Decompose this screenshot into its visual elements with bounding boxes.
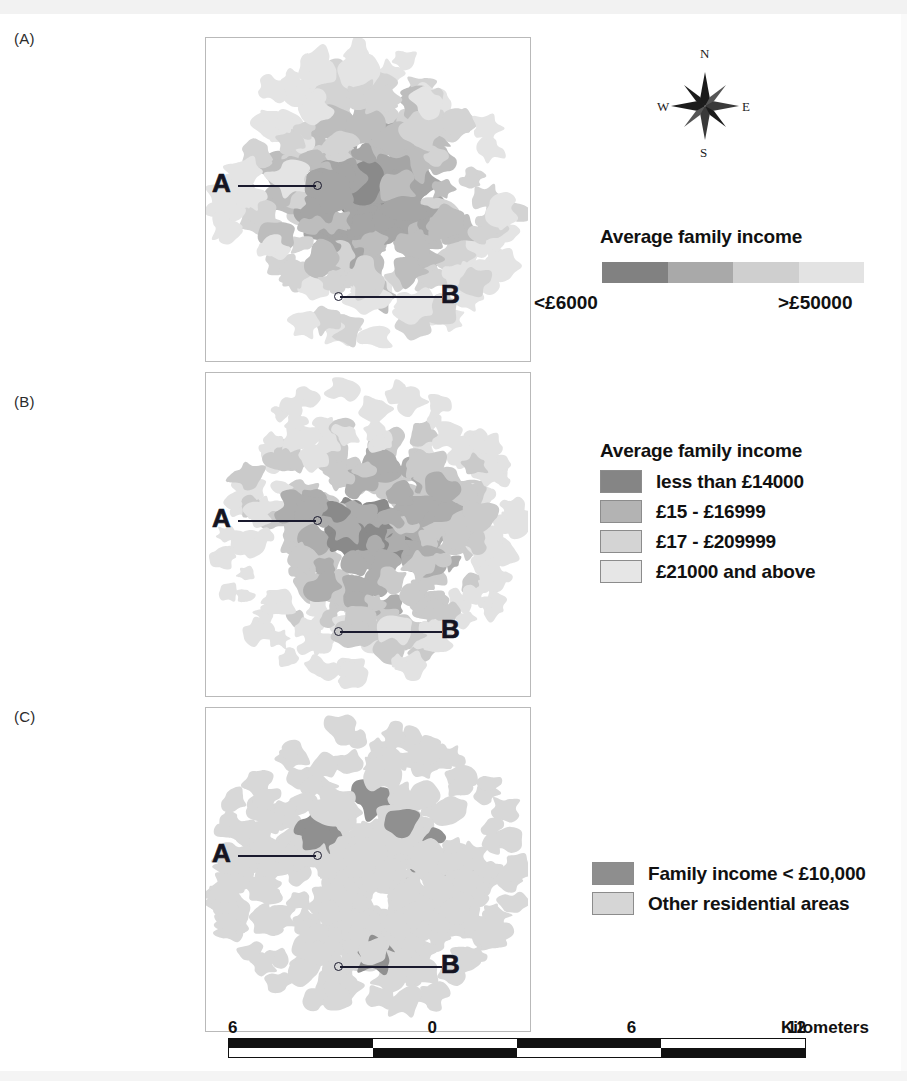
legend-c-swatch: [592, 862, 634, 885]
scale-bar-group: 60612: [228, 1018, 806, 1058]
map-region: [235, 589, 256, 602]
map-marker-b[interactable]: [334, 962, 343, 971]
map-marker-label-a: A: [212, 170, 231, 196]
scale-bar-cell: [517, 1048, 661, 1057]
map-region: [491, 797, 520, 823]
map-region: [397, 386, 429, 417]
legend-c-row: Family income < £10,000: [592, 862, 866, 885]
legend-b-label: £17 - £209999: [656, 531, 776, 553]
marker-leader-line: [238, 520, 316, 522]
legend-b-row: £15 - £16999: [600, 500, 766, 523]
legend-b-swatch: [600, 560, 642, 583]
legend-b-row: £21000 and above: [600, 560, 815, 583]
map-region: [472, 114, 504, 142]
panel-label-b: (B): [14, 393, 35, 410]
legend-b-swatch: [600, 500, 642, 523]
scale-bar-cell: [373, 1048, 517, 1057]
scale-bar-cell: [661, 1039, 805, 1048]
legend-b-swatch: [600, 530, 642, 553]
legend-c-label: Other residential areas: [648, 893, 849, 915]
map-region: [267, 905, 297, 931]
map-marker-b[interactable]: [334, 627, 343, 636]
scale-tick-label: 0: [427, 1018, 436, 1038]
scale-bar-cell: [229, 1039, 373, 1048]
compass-label-north: N: [700, 46, 709, 62]
scale-bar: [228, 1038, 806, 1058]
map-region: [210, 872, 250, 903]
map-region: [219, 582, 237, 601]
scale-bar-cell: [661, 1048, 805, 1057]
map-region: [257, 242, 276, 257]
scan-artifact-right: [901, 14, 907, 1081]
map-region: [287, 311, 320, 339]
map-region: [221, 787, 246, 813]
legend-a-gradient-segment: [799, 262, 865, 283]
scale-bar-cell: [229, 1048, 373, 1057]
map-raster: [206, 708, 528, 1029]
compass-label-east: E: [742, 99, 750, 115]
scan-artifact-bottom: [0, 1071, 907, 1081]
map-marker-label-a: A: [212, 840, 231, 866]
map-marker-label-b: B: [441, 616, 460, 642]
map-region: [269, 630, 291, 650]
panel-label-a: (A): [14, 30, 35, 47]
legend-a-gradient-segment: [668, 262, 734, 283]
legend-b-label: £15 - £16999: [656, 501, 766, 523]
map-raster: [206, 373, 528, 694]
map-marker-b[interactable]: [334, 292, 343, 301]
map-marker-a[interactable]: [313, 851, 322, 860]
map-region: [477, 776, 503, 791]
map-marker-label-b: B: [441, 281, 460, 307]
compass-label-south: S: [700, 145, 707, 161]
legend-b-swatch: [600, 470, 642, 493]
scale-bar-cell: [517, 1039, 661, 1048]
map-marker-label-b: B: [441, 951, 460, 977]
legend-a-high-label: >£50000: [778, 292, 853, 314]
compass-rose-icon: N S E W: [655, 50, 755, 160]
scale-bar-cell: [373, 1039, 517, 1048]
marker-leader-line: [340, 631, 442, 633]
legend-c-label: Family income < £10,000: [648, 863, 866, 885]
map-region: [258, 74, 287, 103]
scale-tick-label: 6: [228, 1018, 237, 1038]
map-marker-label-a: A: [212, 505, 231, 531]
legend-a-low-label: <£6000: [534, 292, 598, 314]
legend-b-label: £21000 and above: [656, 561, 815, 583]
marker-leader-line: [238, 185, 316, 187]
marker-leader-line: [340, 966, 442, 968]
map-marker-a[interactable]: [313, 516, 322, 525]
legend-b-title: Average family income: [600, 440, 802, 462]
legend-b-row: £17 - £209999: [600, 530, 776, 553]
map-panel-c: AB: [205, 707, 531, 1032]
panel-label-c: (C): [14, 708, 35, 725]
legend-a-title: Average family income: [600, 226, 802, 248]
legend-b-label: less than £14000: [656, 471, 804, 493]
legend-a-gradient-segment: [602, 262, 668, 283]
map-region: [219, 808, 238, 828]
map-region: [432, 179, 457, 198]
scan-artifact-top: [0, 0, 907, 14]
legend-c-swatch: [592, 892, 634, 915]
map-region: [309, 752, 338, 778]
legend-b-row: less than £14000: [600, 470, 804, 493]
map-region: [324, 377, 361, 402]
marker-leader-line: [238, 855, 316, 857]
legend-a-gradient-bar: [602, 262, 864, 283]
legend-c-row: Other residential areas: [592, 892, 849, 915]
scale-bar-row-top: [229, 1039, 805, 1048]
figure-page: (A) AB N S E W Average family incom: [0, 0, 907, 1081]
map-raster: [206, 38, 528, 359]
map-panel-b: AB: [205, 372, 531, 697]
marker-leader-line: [340, 296, 442, 298]
legend-a-gradient-segment: [733, 262, 799, 283]
map-region: [324, 715, 358, 746]
scale-bar-row-bottom: [229, 1048, 805, 1057]
scale-units-label: Kilometers: [781, 1018, 869, 1038]
scale-tick-labels: 60612: [228, 1018, 806, 1038]
map-region: [236, 566, 255, 580]
compass-label-west: W: [657, 99, 669, 115]
map-region: [278, 647, 299, 667]
map-marker-a[interactable]: [313, 181, 322, 190]
map-panel-a: AB: [205, 37, 531, 362]
scale-tick-label: 6: [627, 1018, 636, 1038]
